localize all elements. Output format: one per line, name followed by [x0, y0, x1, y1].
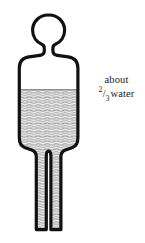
fraction-numerator: 2 — [99, 85, 103, 94]
caption-line-about: about — [88, 74, 145, 86]
caption-word-water: water — [111, 88, 135, 99]
water-fill-region — [14, 89, 84, 232]
human-figure-diagram — [0, 0, 145, 243]
water-surface-line — [14, 89, 84, 91]
water-wave-lines-secondary — [14, 89, 84, 232]
water-body-figure: about 2/3 water — [0, 0, 145, 243]
caption-line-fraction-water: 2/3 water — [88, 86, 145, 102]
fraction-denominator: 3 — [106, 94, 110, 103]
caption: about 2/3 water — [88, 74, 145, 103]
fraction-two-thirds: 2/3 — [99, 86, 110, 102]
